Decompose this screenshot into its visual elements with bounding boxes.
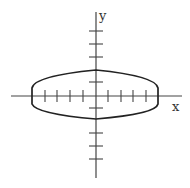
ellipse-diagram: y x [0, 0, 190, 188]
y-axis-label: y [98, 8, 107, 23]
x-axis-label: x [172, 99, 180, 114]
ellipse-curve [32, 70, 158, 119]
